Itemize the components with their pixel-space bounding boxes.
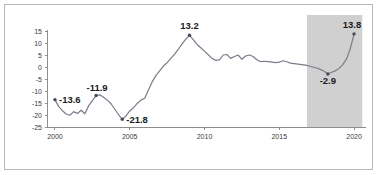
y-tick-label: 15 [34,28,42,35]
data-point-marker [188,34,191,37]
data-value-label: -2.9 [320,75,336,86]
x-tick-label: 2005 [122,133,138,140]
y-tick-label: -15 [32,100,42,107]
y-tick-label: -25 [32,124,42,131]
y-tick-label: 10 [34,40,42,47]
data-point-marker [121,118,124,121]
data-point-marker [53,98,56,101]
x-tick-label: 2020 [346,133,362,140]
data-value-label: -11.9 [87,82,108,93]
y-tick-label: -5 [36,76,42,83]
x-tick-label: 2000 [47,133,63,140]
chart-figure: 151050-5-10-15-20-25 2000200520102015202… [0,0,378,175]
y-tick-label: -20 [32,112,42,119]
data-value-label: -13.6 [59,94,81,105]
x-axis-ticks: 20002005201020152020 [47,127,362,140]
y-tick-label: 0 [38,64,42,71]
data-point-marker [352,32,355,35]
line-chart: 151050-5-10-15-20-25 2000200520102015202… [0,0,378,175]
data-value-label: 13.8 [343,19,362,30]
data-point-marker [94,94,97,97]
x-tick-label: 2010 [197,133,213,140]
y-axis-ticks: 151050-5-10-15-20-25 [32,28,48,131]
data-value-label: -21.8 [126,114,148,125]
y-tick-label: -10 [32,88,42,95]
y-tick-label: 5 [38,52,42,59]
data-value-label: 13.2 [180,20,199,31]
x-tick-label: 2015 [271,133,287,140]
